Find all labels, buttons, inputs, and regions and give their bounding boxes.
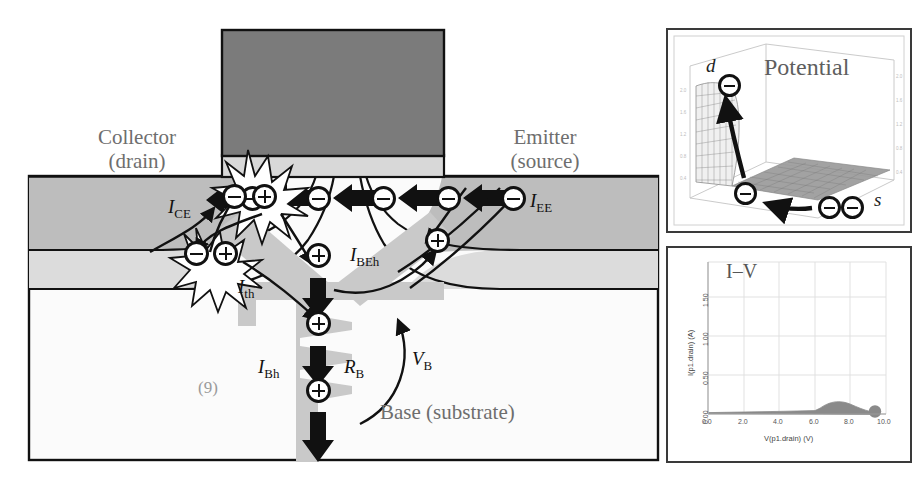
- RB-symbol: R: [344, 356, 356, 377]
- iv-ylabel: I(p1.drain) (A): [686, 330, 695, 376]
- label-current-ICE: ICE: [168, 196, 191, 222]
- iv-ytick-3: 1.50: [702, 293, 709, 307]
- hole-impact-1: [252, 184, 277, 209]
- inset-iv: I–V 0.00 0.50 1.00 1.50 0.0 2.0 4.0 6.0 …: [666, 246, 912, 463]
- iv-xtick-3: 6.0: [809, 418, 819, 425]
- potential-title: Potential: [764, 54, 849, 81]
- electron-impact-2: [184, 241, 209, 266]
- electron-channel-4: [436, 186, 461, 211]
- potential-label-s: s: [874, 189, 881, 210]
- svg-text:0.8: 0.8: [896, 146, 903, 151]
- svg-text:1.2: 1.2: [896, 122, 903, 127]
- VB-sub: B: [424, 358, 433, 373]
- device-cross-section: Collector (drain) Emitter (source) Base …: [0, 0, 660, 489]
- electron-channel-2: [306, 186, 331, 211]
- label-base: Base (substrate): [380, 400, 515, 424]
- VB-symbol: V: [412, 348, 424, 369]
- hole-column-3: [306, 378, 331, 403]
- iv-end-marker: [869, 405, 881, 417]
- label-current-IBEh: IBEh: [350, 244, 379, 270]
- equation-number: (9): [198, 378, 218, 398]
- potential-label-d: d: [706, 55, 716, 76]
- iv-xlabel: V(p1.drain) (V): [764, 434, 813, 443]
- iv-chart-svg: [668, 248, 910, 461]
- iv-xtick-2: 4.0: [773, 418, 783, 425]
- svg-text:2.0: 2.0: [896, 74, 903, 79]
- RB-sub: B: [356, 366, 365, 381]
- label-element-RB: RB: [344, 356, 364, 382]
- svg-text:1.6: 1.6: [896, 98, 903, 103]
- label-current-Ith: Ith: [238, 276, 254, 302]
- iv-ytick-2: 1.00: [702, 332, 709, 346]
- IBEh-sub: BEh: [356, 254, 379, 269]
- iv-title: I–V: [726, 260, 757, 283]
- svg-text:1.2: 1.2: [680, 132, 687, 137]
- layer-gate: [222, 30, 444, 156]
- hole-emitter-junction: [425, 228, 450, 253]
- base-line1: Base (substrate): [380, 400, 515, 424]
- hole-impact-2: [213, 241, 238, 266]
- collector-line2: (drain): [108, 149, 165, 173]
- device-schematic-svg: [0, 0, 660, 489]
- electron-channel-5: [501, 186, 526, 211]
- IEE-sub: EE: [536, 200, 552, 215]
- iv-xtick-4: 8.0: [844, 418, 854, 425]
- label-element-VB: VB: [412, 348, 432, 374]
- iv-xtick-0: 0.0: [702, 418, 712, 425]
- svg-text:2.0: 2.0: [680, 88, 687, 93]
- electron-impact-1: [222, 184, 247, 209]
- ICE-sub: CE: [174, 206, 191, 221]
- emitter-line2: (source): [511, 149, 580, 173]
- Ith-sub: th: [244, 286, 254, 301]
- collector-line1: Collector: [98, 125, 176, 149]
- electron-channel-3: [371, 186, 396, 211]
- iv-xtick-1: 2.0: [738, 418, 748, 425]
- potential-electron-source-2: [841, 196, 864, 219]
- svg-text:1.6: 1.6: [680, 110, 687, 115]
- hole-column-2: [306, 311, 331, 336]
- figure-root: Collector (drain) Emitter (source) Base …: [0, 0, 917, 489]
- potential-electron-mid: [734, 182, 757, 205]
- label-emitter: Emitter (source): [470, 125, 620, 173]
- iv-plot-background: [708, 262, 886, 414]
- iv-xtick-5: 10.0: [877, 418, 891, 425]
- label-current-IBh: IBh: [258, 356, 279, 382]
- svg-text:0.8: 0.8: [680, 154, 687, 159]
- iv-ytick-1: 0.50: [702, 371, 709, 385]
- svg-text:0.4: 0.4: [680, 176, 687, 181]
- potential-electron-drain: [718, 74, 741, 97]
- emitter-line1: Emitter: [514, 125, 577, 149]
- inset-potential: d s 2.01.6 1.20.8 0.4 2.01.6 1.20.8 0.4 …: [666, 28, 912, 233]
- hole-column-1: [306, 243, 331, 268]
- svg-text:0.4: 0.4: [896, 170, 903, 175]
- label-collector: Collector (drain): [62, 125, 212, 173]
- label-current-IEE: IEE: [530, 190, 552, 216]
- potential-electron-source-1: [818, 196, 841, 219]
- IBh-sub: Bh: [264, 366, 279, 381]
